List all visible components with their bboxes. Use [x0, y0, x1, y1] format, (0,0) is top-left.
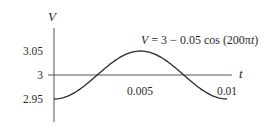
x-tick-label: 0.01	[217, 85, 237, 97]
y-tick-label: 2.95	[23, 93, 43, 105]
y-tick-label: 3.05	[23, 45, 43, 57]
x-axis-label: t	[239, 66, 243, 81]
equation-label: V = 3 − 0.05 cos (200πt)	[141, 33, 258, 47]
y-axis-label: V	[48, 9, 58, 24]
chart: V t 3.05 3 2.95 0.005 0.01 V = 3 − 0.05 …	[0, 0, 274, 130]
y-tick-label: 3	[37, 69, 43, 81]
x-tick-label: 0.005	[127, 85, 153, 97]
